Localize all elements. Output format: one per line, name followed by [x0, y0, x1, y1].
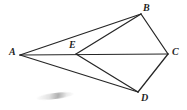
edge-b-c — [141, 14, 168, 54]
edge-a-c — [20, 54, 168, 55]
vertex-label-d: D — [141, 93, 148, 103]
vertex-label-a: A — [9, 47, 16, 57]
edge-e-b — [76, 14, 141, 54]
edge-a-d — [20, 55, 138, 92]
vertex-label-c: C — [172, 47, 179, 57]
figure-canvas — [0, 0, 187, 110]
geometry-figure: A B C D E — [0, 0, 187, 110]
edge-a-b — [20, 14, 141, 55]
vertex-label-e: E — [69, 40, 76, 50]
edge-c-d — [138, 54, 168, 92]
vertex-label-b: B — [143, 3, 150, 13]
edge-e-d — [76, 54, 138, 92]
